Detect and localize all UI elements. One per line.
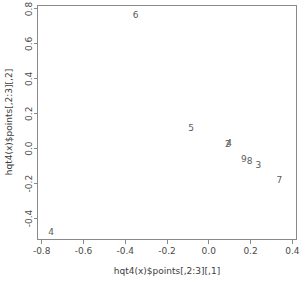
scatter-plot: -0.8-0.6-0.4-0.20.00.20.4 -0.4-0.20.00.2… bbox=[0, 0, 307, 286]
plot-canvas: -0.8-0.6-0.4-0.20.00.20.4 -0.4-0.20.00.2… bbox=[0, 0, 307, 286]
x-tick-label: 0.0 bbox=[202, 246, 217, 256]
x-axis-ticks: -0.8-0.6-0.4-0.20.00.20.4 bbox=[33, 240, 300, 256]
plot-frame bbox=[38, 6, 297, 240]
y-tick-label: 0.6 bbox=[24, 36, 34, 51]
x-axis-title: hqt4(x)$points[,2:3][,1] bbox=[114, 266, 220, 276]
data-point-label: 5 bbox=[188, 123, 194, 133]
y-tick-label: -0.4 bbox=[24, 209, 34, 227]
x-tick-label: 0.4 bbox=[285, 246, 300, 256]
y-tick-label: 0.0 bbox=[24, 141, 34, 156]
data-point-labels: 652498374 bbox=[48, 10, 282, 237]
data-point-label: 7 bbox=[277, 175, 283, 185]
data-point-label: 8 bbox=[247, 156, 253, 166]
x-tick-label: 0.2 bbox=[243, 246, 257, 256]
x-tick-label: -0.4 bbox=[116, 246, 134, 256]
y-tick-label: 0.2 bbox=[24, 107, 34, 121]
y-tick-label: 0.8 bbox=[24, 2, 34, 17]
y-axis-title: hqt4(x)$points[,2:3][,2] bbox=[4, 69, 14, 175]
y-tick-label: 0.4 bbox=[24, 71, 34, 86]
data-point-label: 6 bbox=[133, 10, 139, 20]
data-point-label: 4 bbox=[226, 138, 232, 148]
x-tick-label: -0.2 bbox=[158, 246, 176, 256]
x-tick-label: -0.8 bbox=[33, 246, 51, 256]
data-point-label: 3 bbox=[256, 160, 262, 170]
y-axis-ticks: -0.4-0.20.00.20.40.60.8 bbox=[24, 2, 38, 228]
x-tick-label: -0.6 bbox=[75, 246, 93, 256]
y-tick-label: -0.2 bbox=[24, 175, 34, 193]
data-point-label: 4 bbox=[48, 227, 54, 237]
